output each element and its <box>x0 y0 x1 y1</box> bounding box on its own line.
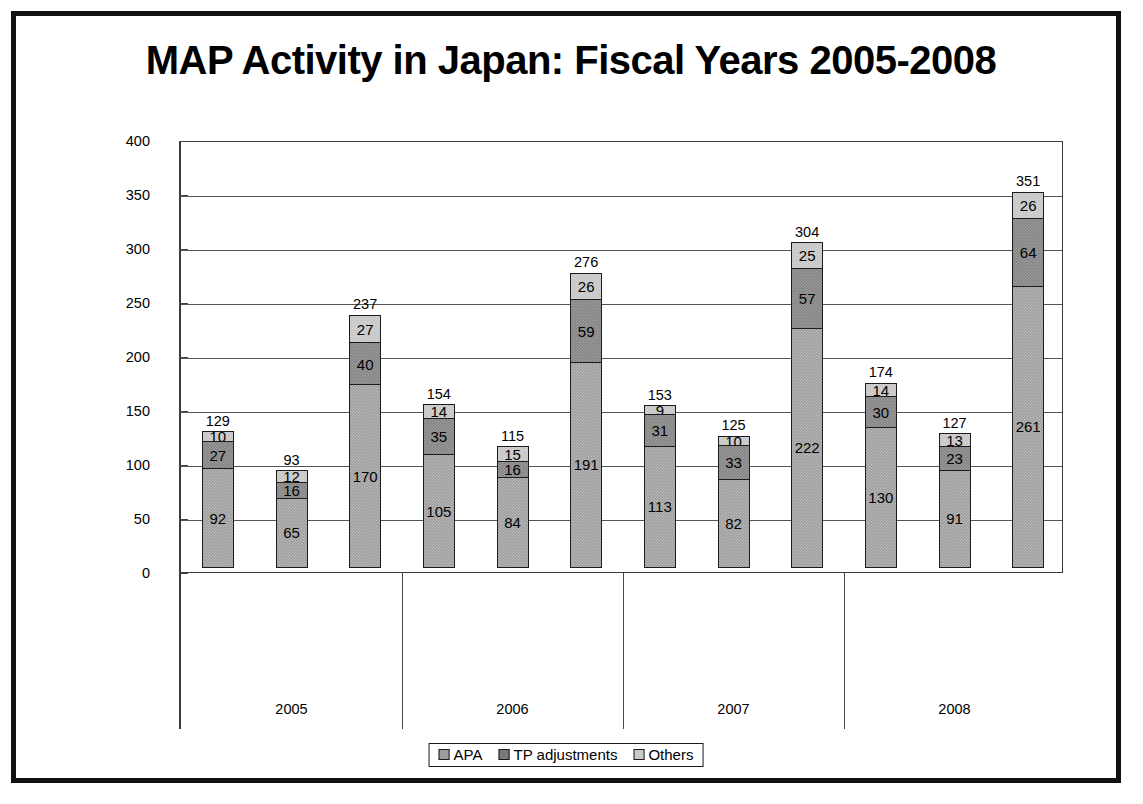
bar-segment-others[interactable]: 25 <box>791 242 823 269</box>
y-axis-tick-label: 100 <box>104 457 150 473</box>
bar-segment-apa[interactable]: 261 <box>1012 286 1044 568</box>
stacked-bar[interactable]: 125103382 <box>718 437 750 572</box>
stacked-bar[interactable]: 93121665 <box>276 472 308 572</box>
category-axis-area: 2005200620072008 <box>179 573 1063 729</box>
bar-segment-value-label: 33 <box>725 455 742 470</box>
bar-segment-value-label: 35 <box>430 429 447 444</box>
bar-total-label: 115 <box>501 428 524 444</box>
bar-segment-apa[interactable]: 91 <box>939 470 971 568</box>
bar-segment-value-label: 26 <box>578 279 595 294</box>
chart-title: MAP Activity in Japan: Fiscal Years 2005… <box>16 38 1126 83</box>
legend-swatch-tp-icon <box>498 749 509 760</box>
stacked-bar[interactable]: 153931113 <box>644 407 676 572</box>
bar-segment-apa[interactable]: 105 <box>423 454 455 567</box>
bar-total-label: 276 <box>574 254 598 270</box>
bar-segment-apa[interactable]: 92 <box>202 468 234 567</box>
legend-label: APA <box>454 747 483 762</box>
bar-segment-tp[interactable]: 16 <box>497 461 529 478</box>
plot-wrapper: 1291027929312166523727401701541435105115… <box>168 130 1063 730</box>
bar-segment-value-label: 59 <box>578 324 595 339</box>
legend-item-others[interactable]: Others <box>633 747 693 762</box>
bar-segment-value-label: 30 <box>872 405 889 420</box>
category-separator <box>402 573 403 729</box>
stacked-bar[interactable]: 1741430130 <box>865 384 897 572</box>
bar-segment-tp[interactable]: 35 <box>423 418 455 456</box>
bar-segment-tp[interactable]: 30 <box>865 396 897 428</box>
y-axis-tick-label: 150 <box>104 403 150 419</box>
bar-segment-tp[interactable]: 64 <box>1012 218 1044 287</box>
bar-segment-apa[interactable]: 222 <box>791 328 823 568</box>
bar-segment-value-label: 16 <box>283 483 300 498</box>
bar-segment-value-label: 27 <box>357 322 374 337</box>
bar-segment-value-label: 261 <box>1016 419 1041 434</box>
bar-segment-value-label: 15 <box>504 447 521 462</box>
category-separator <box>844 573 845 729</box>
bar-segment-tp[interactable]: 23 <box>939 446 971 471</box>
legend-item-apa[interactable]: APA <box>439 747 483 762</box>
bar-segment-tp[interactable]: 27 <box>202 441 234 470</box>
y-axis-tick-mark <box>179 411 188 412</box>
stacked-bar[interactable]: 127132391 <box>939 435 971 572</box>
legend-swatch-apa-icon <box>439 749 450 760</box>
bar-segment-value-label: 26 <box>1020 198 1037 213</box>
bar-segment-tp[interactable]: 57 <box>791 268 823 330</box>
bar-segment-value-label: 222 <box>795 440 820 455</box>
bar-segment-others[interactable]: 15 <box>497 446 529 462</box>
y-axis-tick-label: 350 <box>104 187 150 203</box>
bar-segment-tp[interactable]: 31 <box>644 414 676 447</box>
bar-segment-apa[interactable]: 65 <box>276 498 308 568</box>
gridline <box>181 358 1062 359</box>
bar-segment-tp[interactable]: 33 <box>718 445 750 481</box>
gridline <box>181 250 1062 251</box>
bar-segment-value-label: 27 <box>209 448 226 463</box>
stacked-bar[interactable]: 2762659191 <box>570 274 602 572</box>
bar-segment-apa[interactable]: 113 <box>644 446 676 568</box>
bar-segment-value-label: 40 <box>357 357 374 372</box>
y-axis-tick-mark <box>179 195 188 196</box>
stacked-bar[interactable]: 1541435105 <box>423 406 455 572</box>
bar-segment-value-label: 84 <box>504 515 521 530</box>
bar-total-label: 127 <box>942 415 966 431</box>
gridline <box>181 196 1062 197</box>
bar-segment-tp[interactable]: 59 <box>570 299 602 363</box>
gridline <box>181 520 1062 521</box>
y-axis-tick-mark <box>179 465 188 466</box>
bar-segment-value-label: 191 <box>574 457 599 472</box>
bar-segment-value-label: 57 <box>799 291 816 306</box>
stacked-bar[interactable]: 115151684 <box>497 448 529 572</box>
y-axis-tick-label: 0 <box>104 565 150 581</box>
stacked-bar[interactable]: 129102792 <box>202 433 234 572</box>
y-axis-tick-mark <box>179 573 188 574</box>
bar-segment-value-label: 91 <box>946 511 963 526</box>
legend-label: Others <box>648 747 693 762</box>
bar-segment-apa[interactable]: 82 <box>718 479 750 568</box>
bar-segment-others[interactable]: 26 <box>570 273 602 301</box>
stacked-bar[interactable]: 2372740170 <box>349 316 381 572</box>
bar-segment-apa[interactable]: 84 <box>497 477 529 568</box>
bar-total-label: 93 <box>283 452 299 468</box>
bar-segment-tp[interactable]: 16 <box>276 482 308 499</box>
bar-segment-tp[interactable]: 40 <box>349 342 381 385</box>
bar-total-label: 351 <box>1016 173 1040 189</box>
legend-item-tp[interactable]: TP adjustments <box>498 747 617 762</box>
bar-segment-value-label: 92 <box>209 511 226 526</box>
bar-segment-others[interactable]: 26 <box>1012 192 1044 220</box>
legend-label: TP adjustments <box>513 747 617 762</box>
chart-page: MAP Activity in Japan: Fiscal Years 2005… <box>0 0 1143 804</box>
bar-segment-value-label: 82 <box>725 516 742 531</box>
x-axis-category-label-2006: 2006 <box>496 701 528 717</box>
y-axis-tick-label: 50 <box>104 511 150 527</box>
bar-total-label: 304 <box>795 224 819 240</box>
chart-legend: APATP adjustmentsOthers <box>429 743 704 767</box>
stacked-bar[interactable]: 3512664261 <box>1012 193 1044 572</box>
bar-segment-apa[interactable]: 130 <box>865 427 897 567</box>
bar-total-label: 129 <box>206 413 230 429</box>
plot-area: 1291027929312166523727401701541435105115… <box>179 141 1063 573</box>
bar-segment-others[interactable]: 27 <box>349 315 381 344</box>
bar-segment-apa[interactable]: 170 <box>349 384 381 568</box>
legend-swatch-others-icon <box>633 749 644 760</box>
gridline <box>181 412 1062 413</box>
stacked-bar[interactable]: 3042557222 <box>791 244 823 572</box>
bar-total-label: 153 <box>648 387 672 403</box>
bar-segment-apa[interactable]: 191 <box>570 362 602 568</box>
